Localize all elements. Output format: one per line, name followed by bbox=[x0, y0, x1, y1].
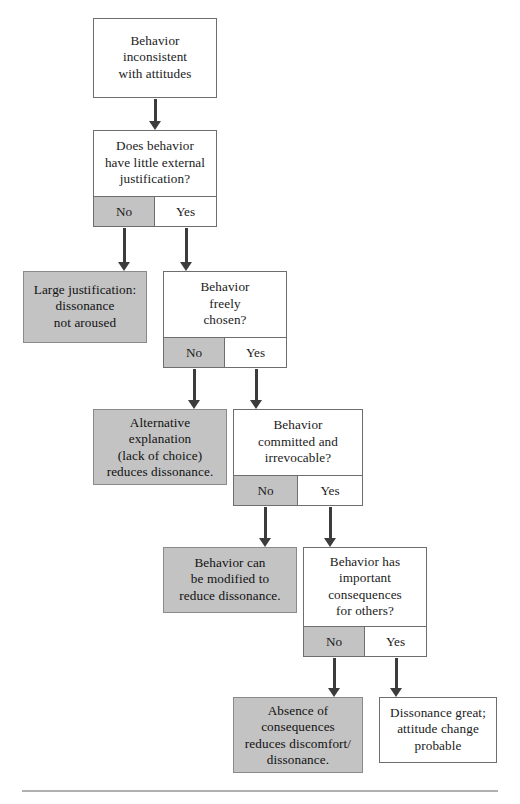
node-large-justification-text: Large justification: dissonance not arou… bbox=[24, 272, 146, 342]
node-committed-irrevocable: Behavior committed and irrevocable? No Y… bbox=[233, 409, 363, 506]
node-absence-of-consequences: Absence of consequences reduces discomfo… bbox=[233, 697, 363, 773]
node-dissonance-great-text: Dissonance great; attitude change probab… bbox=[380, 698, 496, 762]
node-freely-chosen: Behavior freely chosen? No Yes bbox=[163, 271, 287, 368]
node-freely-chosen-text: Behavior freely chosen? bbox=[164, 272, 286, 337]
node-behavior-inconsistent-text: Behavior inconsistent with attitudes bbox=[94, 19, 216, 97]
node-dissonance-great: Dissonance great; attitude change probab… bbox=[379, 697, 497, 763]
arrow-d4-yes-to-dissonance-great bbox=[390, 658, 403, 697]
node-external-justification-text: Does behavior have little external justi… bbox=[94, 131, 216, 196]
node-behavior-modified: Behavior can be modified to reduce disso… bbox=[163, 547, 297, 613]
answer-strip-d2: No Yes bbox=[164, 337, 286, 367]
flowchart-canvas: Behavior inconsistent with attitudes Doe… bbox=[0, 0, 520, 804]
answer-no-d3[interactable]: No bbox=[234, 476, 298, 505]
answer-strip-d4: No Yes bbox=[304, 626, 426, 656]
arrow-d1-yes-to-d2 bbox=[180, 228, 193, 271]
arrow-d1-no-to-large-justification bbox=[118, 228, 131, 271]
node-important-consequences-text: Behavior has important consequences for … bbox=[304, 548, 426, 626]
node-behavior-inconsistent: Behavior inconsistent with attitudes bbox=[93, 18, 217, 98]
arrow-d3-no-to-behavior-modified bbox=[259, 507, 272, 547]
arrow-start-to-d1 bbox=[149, 99, 162, 130]
node-absence-of-consequences-text: Absence of consequences reduces discomfo… bbox=[234, 698, 362, 774]
answer-yes-d3[interactable]: Yes bbox=[298, 476, 362, 505]
node-alternative-explanation-text: Alternative explanation (lack of choice)… bbox=[94, 410, 226, 486]
answer-strip-d1: No Yes bbox=[94, 196, 216, 226]
node-committed-irrevocable-text: Behavior committed and irrevocable? bbox=[234, 410, 362, 475]
answer-strip-d3: No Yes bbox=[234, 475, 362, 505]
answer-yes-d1[interactable]: Yes bbox=[155, 197, 216, 226]
arrow-d3-yes-to-d4 bbox=[324, 507, 337, 547]
node-external-justification: Does behavior have little external justi… bbox=[93, 130, 217, 227]
node-behavior-modified-text: Behavior can be modified to reduce disso… bbox=[164, 548, 296, 612]
answer-no-d1[interactable]: No bbox=[94, 197, 155, 226]
answer-yes-d4[interactable]: Yes bbox=[365, 627, 426, 656]
arrow-d2-yes-to-d3 bbox=[250, 369, 263, 409]
node-important-consequences: Behavior has important consequences for … bbox=[303, 547, 427, 657]
answer-no-d2[interactable]: No bbox=[164, 338, 225, 367]
answer-no-d4[interactable]: No bbox=[304, 627, 365, 656]
arrow-d2-no-to-alternative-explanation bbox=[188, 369, 201, 409]
bottom-divider bbox=[22, 790, 498, 792]
node-large-justification: Large justification: dissonance not arou… bbox=[23, 271, 147, 343]
arrow-d4-no-to-absence-of-consequences bbox=[328, 658, 341, 697]
node-alternative-explanation: Alternative explanation (lack of choice)… bbox=[93, 409, 227, 485]
answer-yes-d2[interactable]: Yes bbox=[225, 338, 286, 367]
